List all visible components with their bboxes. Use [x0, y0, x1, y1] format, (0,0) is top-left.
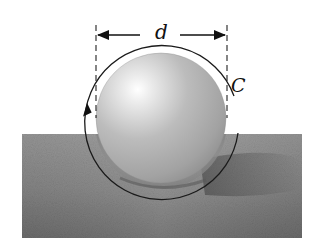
diagram-figure: d C	[0, 0, 322, 251]
sphere	[96, 53, 226, 183]
circumference-label: C	[231, 76, 246, 95]
circumference-arrow-icon	[83, 103, 93, 118]
diameter-label: d	[155, 22, 168, 42]
